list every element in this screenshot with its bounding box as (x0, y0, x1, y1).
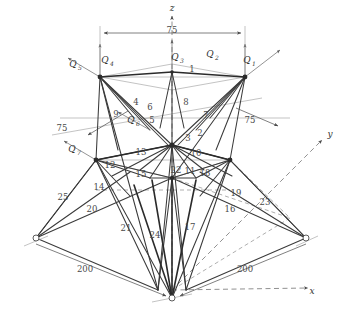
support-right (303, 235, 309, 241)
member-label-9: 9 (113, 109, 118, 119)
member-label-18: 18 (200, 168, 211, 178)
svg-text:Q: Q (171, 52, 179, 62)
support-bottom (169, 295, 175, 301)
member-label-20: 20 (87, 204, 98, 214)
y-axis-label: y (326, 129, 333, 139)
z-axis-label: z (169, 3, 175, 13)
node-top-right (243, 75, 248, 80)
node-apex (170, 70, 174, 74)
svg-text:Q: Q (127, 115, 135, 125)
svg-text:7: 7 (77, 149, 81, 156)
member-label-16: 16 (225, 204, 236, 214)
node-mid-right (228, 158, 233, 163)
load-label-q7: Q 7 (68, 144, 81, 156)
node-center (169, 142, 174, 147)
member-label-14: 14 (94, 182, 105, 192)
svg-text:Q: Q (68, 144, 76, 154)
member-label-19: 19 (231, 188, 242, 198)
member-label-4: 4 (133, 97, 138, 107)
member-label-5: 5 (149, 115, 154, 125)
svg-text:1: 1 (252, 60, 256, 67)
node-lower-center (170, 176, 174, 180)
member-label-2: 2 (197, 128, 202, 138)
svg-text:Q: Q (101, 55, 109, 65)
svg-text:6: 6 (136, 120, 140, 127)
svg-text:Q: Q (206, 49, 214, 59)
svg-text:Q: Q (69, 59, 77, 69)
member-label-24: 24 (150, 230, 161, 240)
member-label-10: 10 (191, 148, 202, 158)
member-label-6: 6 (147, 102, 152, 112)
dimension-lines (24, 26, 318, 302)
member-label-12: 12 (105, 160, 116, 170)
truss-diagram: z y x Q 4 Q 3 Q 2 Q 1 Q 5 (0, 0, 346, 324)
member-label-7: 7 (203, 110, 208, 120)
load-label-q5: Q 5 (69, 59, 82, 71)
load-label-q2: Q 2 (206, 49, 219, 61)
dim-left-200: 200 (77, 264, 93, 274)
member-label-17: 17 (185, 222, 196, 232)
member-label-13: 13 (136, 147, 147, 157)
member-number-labels: 1 2 3 4 5 6 7 8 9 10 11 12 13 14 15 16 1… (58, 64, 271, 240)
member-label-25: 25 (58, 192, 69, 202)
load-label-q4: Q 4 (101, 55, 114, 67)
member-label-15: 15 (136, 169, 147, 179)
truss-svg: z y x Q 4 Q 3 Q 2 Q 1 Q 5 (0, 0, 346, 324)
member-label-22: 22 (171, 165, 182, 175)
dim-right-75: 75 (245, 115, 256, 125)
svg-text:5: 5 (78, 64, 82, 71)
x-axis-line (172, 288, 308, 290)
svg-text:4: 4 (109, 60, 114, 67)
support-left (33, 235, 39, 241)
load-labels: Q 4 Q 3 Q 2 Q 1 Q 5 Q 6 (68, 49, 256, 156)
svg-text:2: 2 (214, 54, 219, 61)
member-label-8: 8 (183, 97, 188, 107)
node-mid-left (94, 158, 99, 163)
member-label-1: 1 (189, 64, 194, 74)
x-axis-label: x (309, 286, 314, 296)
svg-text:Q: Q (243, 55, 251, 65)
dim-right-200: 200 (237, 264, 253, 274)
member-label-21: 21 (121, 223, 132, 233)
load-label-q3: Q 3 (171, 52, 184, 64)
dim-left-75: 75 (57, 123, 68, 133)
dim-top-75: 75 (167, 25, 178, 35)
node-top-left (98, 75, 103, 80)
member-label-3: 3 (185, 133, 190, 143)
member-label-11: 11 (185, 166, 196, 176)
svg-text:3: 3 (180, 57, 184, 64)
member-label-23: 23 (260, 197, 271, 207)
